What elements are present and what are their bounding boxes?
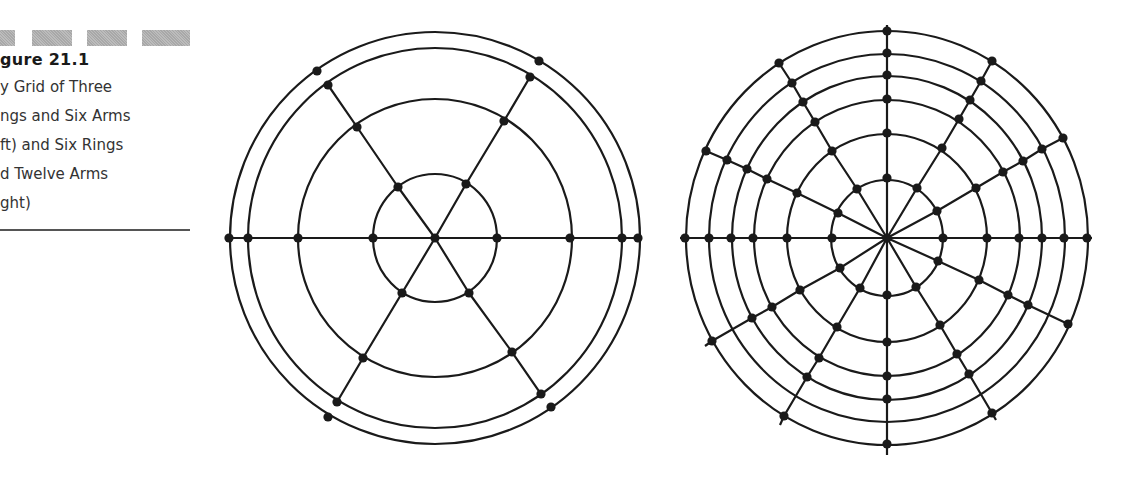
node-dot <box>1063 319 1072 328</box>
node-dot <box>461 179 470 188</box>
node-dot <box>767 302 776 311</box>
node-dot <box>971 183 980 192</box>
node-dot <box>882 337 891 346</box>
node-dot <box>507 347 516 356</box>
node-dot <box>982 233 991 242</box>
node-dot <box>882 173 891 182</box>
node-dot <box>499 116 508 125</box>
node-dot <box>833 208 842 217</box>
node-dot <box>332 397 341 406</box>
node-dot <box>882 94 891 103</box>
node-dot <box>1037 233 1046 242</box>
node-dot <box>933 256 942 265</box>
node-dot <box>882 48 891 57</box>
node-dot <box>748 233 757 242</box>
node-dot <box>747 313 756 322</box>
node-dot <box>965 95 974 104</box>
node-dot <box>954 114 963 123</box>
node-dot <box>882 290 891 299</box>
left-grid-three-rings-six-arms <box>224 32 642 444</box>
node-dot <box>358 353 367 362</box>
node-dot <box>937 143 946 152</box>
node-dot <box>293 233 302 242</box>
node-dot <box>1082 233 1091 242</box>
node-dot <box>974 275 983 284</box>
node-dot <box>810 117 819 126</box>
node-dot <box>882 394 891 403</box>
arm <box>435 238 541 394</box>
node-dot <box>795 285 804 294</box>
node-dot <box>932 206 941 215</box>
node-dot <box>546 402 555 411</box>
node-dot <box>464 288 473 297</box>
right-grid-six-rings-twelve-arms <box>680 25 1092 455</box>
node-dot <box>243 233 252 242</box>
node-dot <box>707 336 716 345</box>
node-dot <box>633 233 642 242</box>
node-dot <box>787 78 796 87</box>
node-dot <box>964 369 973 378</box>
node-dot <box>704 233 713 242</box>
node-dot <box>492 233 501 242</box>
node-dot <box>617 233 626 242</box>
grid-diagrams <box>0 0 1129 488</box>
node-dot <box>701 146 710 155</box>
node-dot <box>536 389 545 398</box>
node-dot <box>393 182 402 191</box>
node-dot <box>976 76 985 85</box>
node-dot <box>835 263 844 272</box>
node-dot <box>792 188 801 197</box>
node-dot <box>726 233 735 242</box>
node-dot <box>855 283 864 292</box>
node-dot <box>912 183 921 192</box>
node-dot <box>323 412 332 421</box>
node-dot <box>987 56 996 65</box>
node-dot <box>911 282 920 291</box>
node-dot <box>1058 133 1067 142</box>
node-dot <box>1014 233 1023 242</box>
node-dot <box>224 233 233 242</box>
node-dot <box>852 184 861 193</box>
node-dot <box>352 122 361 131</box>
node-dot <box>323 80 332 89</box>
node-dot <box>1003 290 1012 299</box>
node-dot <box>882 439 891 448</box>
arm <box>780 238 887 425</box>
node-dot <box>882 233 891 242</box>
node-dot <box>827 233 836 242</box>
node-dot <box>525 72 534 81</box>
node-dot <box>742 164 751 173</box>
node-dot <box>882 70 891 79</box>
node-dot <box>882 371 891 380</box>
node-dot <box>680 233 689 242</box>
node-dot <box>565 233 574 242</box>
node-dot <box>430 233 439 242</box>
node-dot <box>368 233 377 242</box>
node-dot <box>802 372 811 381</box>
node-dot <box>534 56 543 65</box>
node-dot <box>774 58 783 67</box>
node-dot <box>722 155 731 164</box>
node-dot <box>938 233 947 242</box>
node-dot <box>1018 156 1027 165</box>
arm <box>337 238 435 402</box>
node-dot <box>312 66 321 75</box>
node-dot <box>397 288 406 297</box>
node-dot <box>832 322 841 331</box>
node-dot <box>762 174 771 183</box>
node-dot <box>1059 233 1068 242</box>
node-dot <box>782 233 791 242</box>
node-dot <box>814 353 823 362</box>
node-dot <box>1023 300 1032 309</box>
arm <box>435 77 530 238</box>
node-dot <box>998 167 1007 176</box>
node-dot <box>882 128 891 137</box>
node-dot <box>779 411 788 420</box>
node-dot <box>987 408 996 417</box>
node-dot <box>882 26 891 35</box>
arm <box>328 85 435 238</box>
node-dot <box>1037 144 1046 153</box>
node-dot <box>952 349 961 358</box>
node-dot <box>935 320 944 329</box>
node-dot <box>798 97 807 106</box>
